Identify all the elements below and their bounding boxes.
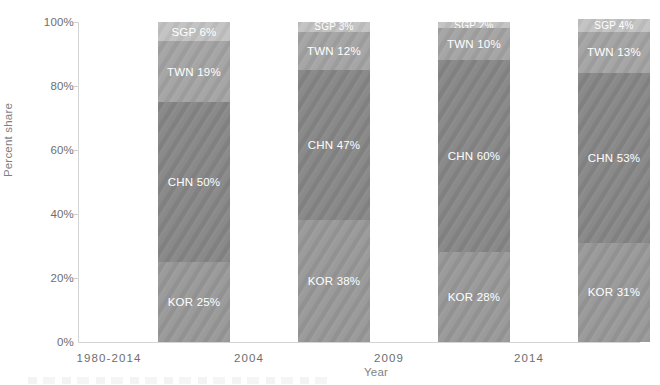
x-axis-line [78, 342, 640, 343]
bar-segment-label: KOR 38% [308, 275, 361, 287]
bar-segment-label: SGP 2% [454, 22, 493, 28]
stacked-bar-chart: Percent share 100% 80% 60% 40% 20% 0% KO… [0, 0, 660, 385]
y-tick-label: 100% [32, 16, 74, 28]
bar-segment-label: CHN 60% [448, 150, 501, 162]
bar-column[interactable]: KOR 28%CHN 60%TWN 10%SGP 2% [438, 22, 510, 342]
x-tick-label-3: 2014 [449, 352, 609, 364]
bar-segment-chn[interactable]: CHN 53% [578, 73, 650, 243]
x-tick-label-1: 2004 [169, 352, 329, 364]
bar-segment-label: TWN 10% [447, 38, 501, 50]
bar-column[interactable]: KOR 31%CHN 53%TWN 13%SGP 4% [578, 22, 650, 342]
bar-segment-label: CHN 47% [308, 139, 361, 151]
bar-segment-label: TWN 12% [307, 45, 361, 57]
y-tick-label: 80% [32, 80, 74, 92]
bar-segment-label: KOR 28% [448, 291, 501, 303]
bar-segment-twn[interactable]: TWN 13% [578, 32, 650, 74]
bar-segment-twn[interactable]: TWN 10% [438, 28, 510, 60]
bar-segment-chn[interactable]: CHN 47% [298, 70, 370, 220]
bar-column[interactable]: KOR 38%CHN 47%TWN 12%SGP 3% [298, 22, 370, 342]
bar-segment-sgp[interactable]: SGP 3% [298, 22, 370, 32]
page-footer-artifact [28, 377, 328, 384]
bar-segment-label: CHN 50% [168, 176, 221, 188]
bar-segment-label: TWN 19% [167, 66, 221, 78]
bar-segment-label: KOR 25% [168, 296, 221, 308]
y-tick-label: 40% [32, 208, 74, 220]
bar-segment-label: SGP 3% [314, 22, 353, 32]
bar-segment-kor[interactable]: KOR 38% [298, 220, 370, 342]
bar-segment-kor[interactable]: KOR 31% [578, 243, 650, 342]
bar-column[interactable]: KOR 25%CHN 50%TWN 19%SGP 6% [158, 22, 230, 342]
bar-segment-twn[interactable]: TWN 12% [298, 32, 370, 70]
y-tick-label: 0% [32, 336, 74, 348]
x-tick-label-2: 2009 [309, 352, 469, 364]
bar-segment-chn[interactable]: CHN 50% [158, 102, 230, 262]
bar-segment-sgp[interactable]: SGP 2% [438, 22, 510, 28]
y-tick-label: 20% [32, 272, 74, 284]
plot-area: KOR 25%CHN 50%TWN 19%SGP 6%KOR 38%CHN 47… [79, 22, 640, 342]
bar-segment-kor[interactable]: KOR 28% [438, 252, 510, 342]
bar-segment-label: CHN 53% [588, 152, 641, 164]
bar-segment-twn[interactable]: TWN 19% [158, 41, 230, 102]
bar-segment-chn[interactable]: CHN 60% [438, 60, 510, 252]
bar-segment-sgp[interactable]: SGP 4% [578, 19, 650, 32]
y-axis-tick-labels: 100% 80% 60% 40% 20% 0% [24, 0, 74, 385]
bar-segment-label: TWN 13% [587, 46, 641, 58]
y-tick-label: 60% [32, 144, 74, 156]
bar-segment-label: SGP 4% [594, 20, 633, 31]
bar-segment-kor[interactable]: KOR 25% [158, 262, 230, 342]
y-axis-title: Percent share [2, 80, 18, 200]
bar-segment-label: SGP 6% [171, 26, 216, 38]
bar-segment-label: KOR 31% [588, 286, 641, 298]
x-tick-label-0: 1980-2014 [29, 352, 189, 364]
bar-segment-sgp[interactable]: SGP 6% [158, 22, 230, 41]
